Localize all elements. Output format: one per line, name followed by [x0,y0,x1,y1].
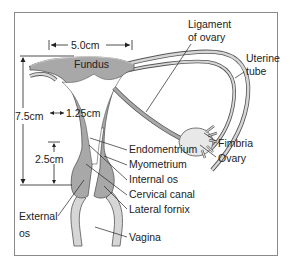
uterus-body [30,57,134,199]
label-endometrium: Endomentrium [129,143,198,155]
uterus-diagram: 5.0cm 7.5cm 1.25cm 2.5cm Fundus Ligament… [0,0,295,273]
label-uterine-tube-line2: tube [246,65,267,77]
ligament-of-ovary [114,88,180,138]
dimension-cervix: 2.5cm [35,142,64,184]
vagina [71,192,123,246]
label-fimbria: Fimbria [218,137,253,149]
dimension-width: 5.0cm [49,39,132,51]
label-internal-os: Internal os [129,173,178,185]
label-uterine-tube-line1: Uterine [246,52,280,64]
dimension-wall: 1.25cm [50,107,101,119]
dimension-wall-label: 1.25cm [66,107,101,119]
dimension-width-label: 5.0cm [71,39,100,51]
dimension-length-label: 7.5cm [15,110,44,122]
label-myometrium: Myometrium [129,158,187,170]
label-ligament-line1: Ligament [188,18,231,30]
label-fundus: Fundus [74,58,109,70]
label-external-os-line1: External [19,210,58,222]
label-ligament-line2: of ovary [188,31,226,43]
dimension-cervix-label: 2.5cm [35,153,64,165]
label-external-os-line2: os [19,227,30,239]
label-cervical-canal: Cervical canal [129,188,195,200]
label-lateral-fornix: Lateral fornix [129,203,190,215]
label-ovary: Ovary [218,152,247,164]
label-vagina: Vagina [129,231,161,243]
